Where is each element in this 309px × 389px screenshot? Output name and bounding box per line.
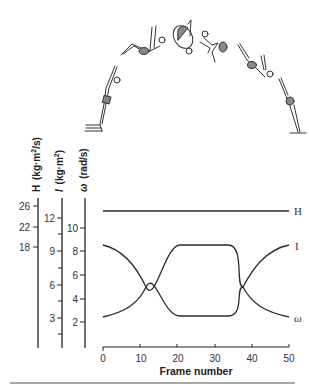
i-tick-12: 12 [44,213,56,224]
x-tick-50: 50 [283,353,295,364]
i-tick-3: 3 [49,313,55,324]
diver-frame-2-icon [121,26,165,55]
plot-curves [103,211,289,317]
i-tick-9: 9 [49,246,55,257]
h-tick-22: 22 [19,222,31,233]
i-axis-title: I (kg·m2) [53,150,65,192]
x-tick-30: 30 [209,353,221,364]
i-tick-6: 6 [49,280,55,291]
h-tick-18: 18 [19,242,31,253]
w-tick-6: 6 [72,270,78,281]
h-axis: 26 22 18 H (kg·m2/s) [19,137,42,348]
w-tick-8: 8 [72,246,78,257]
x-tick-10: 10 [135,353,147,364]
omega-curve [103,283,289,317]
i-axis: 12 9 6 3 I (kg·m2) [44,150,65,348]
w-tick-2: 2 [72,317,78,328]
springboard-icon [85,125,102,131]
h-curve-label: H [294,205,302,217]
diver-frame-5-icon [238,44,273,77]
h-tick-26: 26 [19,201,31,212]
x-axis-label: Frame number [160,365,233,377]
omega-curve-label: ω [294,312,302,324]
diver-frame-3-icon [169,20,197,54]
figure: 26 22 18 H (kg·m2/s) 12 9 6 3 I (kg·m2) [0,0,309,389]
w-tick-4: 4 [72,294,78,305]
i-curve [103,245,289,290]
omega-axis-title: ω (rad/s) [78,148,89,192]
h-axis-title: H (kg·m2/s) [30,137,42,192]
diver-illustration [85,20,306,133]
x-tick-0: 0 [100,353,106,364]
i-curve-label: I [295,240,299,252]
x-tick-40: 40 [246,353,258,364]
w-tick-10: 10 [67,223,79,234]
x-tick-20: 20 [172,353,184,364]
diver-frame-4-icon [200,31,227,62]
omega-axis: 10 8 6 4 2 ω (rad/s) [67,148,89,348]
diver-frame-1-icon [100,66,120,124]
diver-frame-6-icon [279,78,306,133]
x-axis: 0 10 20 30 40 50 Frame number [100,344,295,377]
